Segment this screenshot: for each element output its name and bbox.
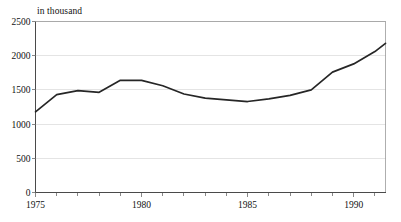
x-tick-label: 1980 bbox=[132, 200, 151, 210]
y-tick-label: 0 bbox=[26, 188, 31, 198]
y-axis-tick-labels: 05001000150020002500 bbox=[12, 17, 36, 198]
x-tick-marks bbox=[36, 193, 375, 198]
chart-canvas: 05001000150020002500 1975198019851990 bbox=[0, 0, 401, 222]
x-tick-label: 1990 bbox=[344, 200, 363, 210]
gridlines bbox=[36, 22, 386, 159]
y-tick-label: 1000 bbox=[12, 120, 31, 130]
x-axis-tick-labels: 1975198019851990 bbox=[26, 200, 363, 210]
y-tick-label: 1500 bbox=[12, 85, 31, 95]
y-axis-unit-label: in thousand bbox=[37, 6, 82, 17]
plot-frame bbox=[36, 22, 386, 193]
x-tick-label: 1985 bbox=[238, 200, 257, 210]
y-tick-label: 500 bbox=[16, 154, 31, 164]
y-tick-label: 2000 bbox=[12, 51, 31, 61]
data-series bbox=[36, 43, 386, 111]
y-tick-label: 2500 bbox=[12, 17, 31, 27]
line-chart: in thousand 05001000150020002500 1975198… bbox=[0, 0, 401, 222]
series-line bbox=[36, 43, 386, 111]
x-tick-label: 1975 bbox=[26, 200, 45, 210]
